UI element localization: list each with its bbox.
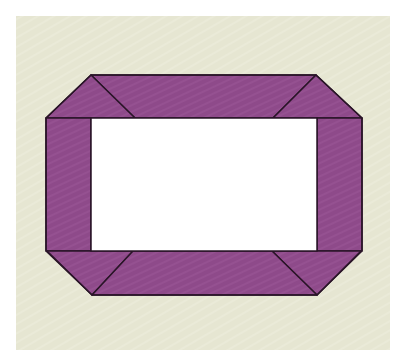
frame-diagram (0, 0, 410, 359)
frame-window (91, 118, 317, 251)
frame-piece-left-stile (46, 118, 91, 251)
frame-piece-right-stile (317, 118, 362, 251)
